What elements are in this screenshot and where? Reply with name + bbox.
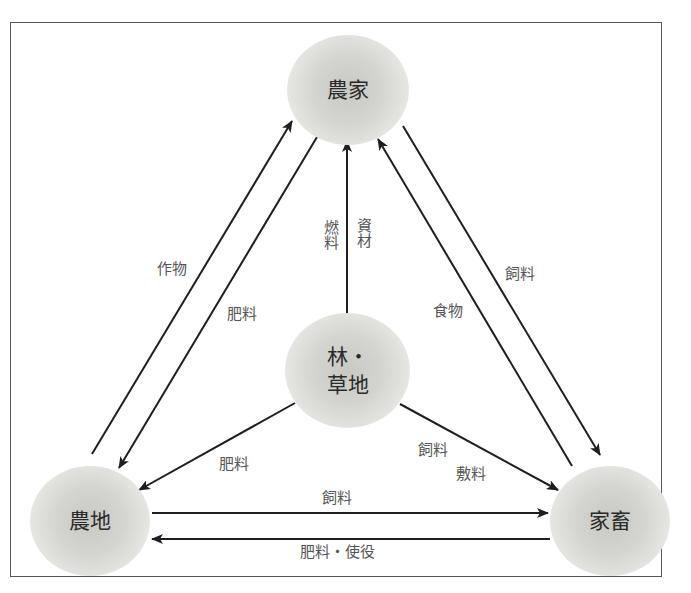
node-forest-label-line2: 草地 [327, 371, 369, 399]
node-farmhouse: 農家 [287, 35, 409, 145]
edge-label-forest-bedding: 敷料 [456, 465, 486, 483]
node-farmland: 農地 [30, 466, 150, 576]
node-forest-grassland: 林・ 草地 [285, 313, 410, 428]
arrow-farmland-to-farmhouse [92, 121, 292, 454]
arrow-farmhouse-to-farmland [119, 137, 317, 468]
arrow-livestock-to-farmhouse [378, 139, 572, 466]
edge-label-food: 食物 [433, 302, 463, 320]
arrow-forest-to-farmland [139, 403, 295, 490]
edge-label-fuel: 燃料 [323, 220, 339, 250]
edge-label-manure-labor: 肥料・使役 [300, 543, 375, 561]
node-farmhouse-label: 農家 [327, 76, 369, 104]
edge-label-farmland-feed: 飼料 [322, 489, 352, 507]
edge-label-materials: 資材 [356, 218, 372, 248]
edge-label-fertilizer-to-farmland: 肥料 [227, 305, 257, 323]
edge-label-crops: 作物 [157, 260, 187, 278]
edge-label-feed-to-livestock: 飼料 [505, 265, 535, 283]
node-farmland-label: 農地 [69, 507, 111, 535]
node-forest-label-line1: 林・ [327, 343, 369, 371]
arrow-farmhouse-to-livestock [403, 126, 600, 455]
node-livestock-label: 家畜 [589, 507, 631, 535]
edge-label-forest-feed: 飼料 [418, 441, 448, 459]
node-livestock: 家畜 [550, 466, 670, 576]
edge-label-forest-fertilizer: 肥料 [219, 455, 249, 473]
